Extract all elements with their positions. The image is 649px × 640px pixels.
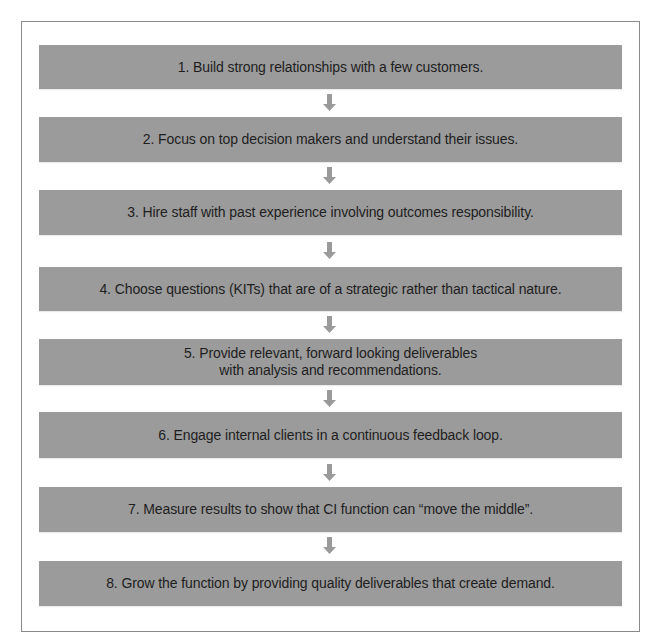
flow-step-8-label: 8. Grow the function by providing qualit… bbox=[106, 575, 555, 592]
flow-step-6-label: 6. Engage internal clients in a continuo… bbox=[158, 427, 503, 444]
down-arrow-icon bbox=[323, 316, 336, 333]
flow-step-8: 8. Grow the function by providing qualit… bbox=[39, 561, 622, 606]
down-arrow-icon bbox=[323, 390, 336, 407]
flow-step-2-label: 2. Focus on top decision makers and unde… bbox=[143, 131, 518, 148]
down-arrow-icon bbox=[323, 537, 336, 554]
flow-step-7: 7. Measure results to show that CI funct… bbox=[39, 487, 622, 532]
flow-step-4-label: 4. Choose questions (KITs) that are of a… bbox=[99, 281, 561, 298]
flow-step-1: 1. Build strong relationships with a few… bbox=[39, 45, 622, 89]
down-arrow-icon bbox=[323, 242, 336, 259]
down-arrow-icon bbox=[323, 167, 336, 184]
flow-step-5: 5. Provide relevant, forward looking del… bbox=[39, 339, 622, 385]
down-arrow-icon bbox=[323, 94, 336, 111]
flow-step-3-label: 3. Hire staff with past experience invol… bbox=[127, 204, 534, 221]
flow-step-4: 4. Choose questions (KITs) that are of a… bbox=[39, 267, 622, 311]
flow-step-7-label: 7. Measure results to show that CI funct… bbox=[128, 501, 533, 518]
down-arrow-icon bbox=[323, 464, 336, 481]
flow-step-2: 2. Focus on top decision makers and unde… bbox=[39, 117, 622, 162]
flow-step-5-label: 5. Provide relevant, forward looking del… bbox=[184, 345, 477, 379]
flow-step-1-label: 1. Build strong relationships with a few… bbox=[178, 59, 483, 76]
flow-step-6: 6. Engage internal clients in a continuo… bbox=[39, 412, 622, 458]
flow-step-3: 3. Hire staff with past experience invol… bbox=[39, 190, 622, 235]
